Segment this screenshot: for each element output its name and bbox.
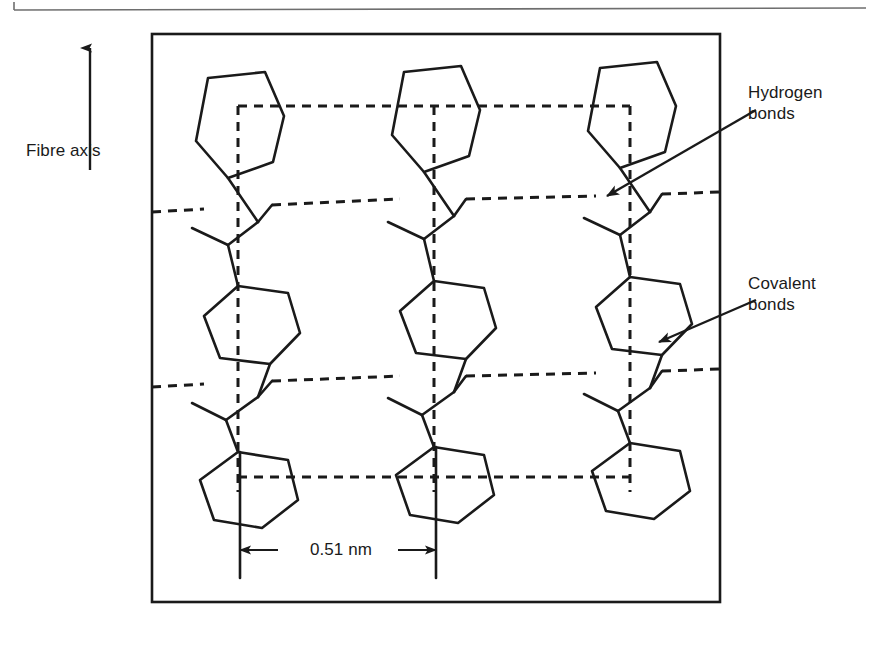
covalent-bonds-label: Covalentbonds	[748, 273, 868, 316]
scale-bar-label: 0.51 nm	[286, 539, 396, 560]
covalent-bonds-leader-line	[659, 300, 756, 342]
hydrogen-bonds-label-line1: Hydrogen	[748, 83, 823, 102]
hydrogen-bonds-label: Hydrogenbonds	[748, 82, 868, 125]
polymer-chain-middle	[388, 66, 496, 578]
figure-page: Fibre axis Hydrogenbonds Covalentbonds 0…	[0, 0, 872, 648]
chain-axis-dashed-lines	[238, 106, 630, 492]
polymer-chain-right	[584, 62, 692, 519]
page-top-rule	[14, 2, 866, 10]
hydrogen-bonds-label-line2: bonds	[748, 104, 795, 123]
molecular-diagram-canvas	[0, 0, 872, 648]
covalent-bonds-label-line1: Covalent	[748, 274, 816, 293]
polymer-chain-left	[192, 72, 300, 578]
fibre-axis-label: Fibre axis	[26, 140, 101, 161]
covalent-bonds-label-line2: bonds	[748, 295, 795, 314]
